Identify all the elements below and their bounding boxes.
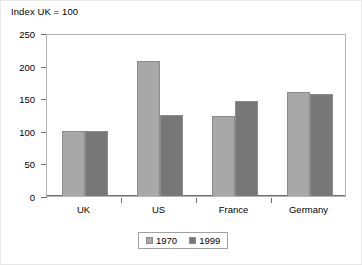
y-axis-tick — [41, 197, 46, 198]
bar-us-1999 — [160, 115, 183, 196]
y-axis-tick — [41, 67, 46, 68]
chart-legend: 19701999 — [138, 232, 228, 249]
y-axis-tick — [41, 164, 46, 165]
bar-germany-1970 — [287, 92, 310, 196]
legend-label: 1999 — [199, 235, 220, 246]
plot-area — [46, 34, 346, 197]
bar-us-1970 — [137, 61, 160, 196]
y-axis-tick — [41, 132, 46, 133]
x-axis-separator — [121, 198, 122, 203]
x-axis-tick-label: France — [219, 204, 249, 215]
legend-item: 1999 — [189, 235, 220, 246]
bar-uk-1999 — [85, 131, 108, 196]
y-axis-tick-label: 0 — [30, 192, 35, 203]
y-axis-tick — [41, 99, 46, 100]
legend-label: 1970 — [156, 235, 177, 246]
bar-germany-1999 — [310, 94, 333, 196]
x-axis-tick-label: US — [152, 204, 165, 215]
x-axis-separator — [196, 198, 197, 203]
bar-uk-1970 — [62, 131, 85, 196]
legend-swatch-icon — [146, 237, 153, 244]
x-axis-tick-label: UK — [77, 204, 90, 215]
x-axis-separator — [271, 198, 272, 203]
y-axis-tick — [41, 34, 46, 35]
y-axis-tick-label: 100 — [19, 126, 35, 137]
y-axis-tick-label: 50 — [24, 159, 35, 170]
legend-item: 1970 — [146, 235, 177, 246]
bar-france-1999 — [235, 101, 258, 196]
y-axis-tick-label: 250 — [19, 29, 35, 40]
chart-figure: Index UK = 100 050100150200250 UKUSFranc… — [0, 0, 362, 265]
legend-swatch-icon — [189, 237, 196, 244]
y-axis-tick-label: 150 — [19, 94, 35, 105]
chart-title: Index UK = 100 — [11, 6, 78, 17]
x-axis-tick-label: Germany — [289, 204, 328, 215]
y-axis-tick-label: 200 — [19, 61, 35, 72]
bar-france-1970 — [212, 116, 235, 196]
